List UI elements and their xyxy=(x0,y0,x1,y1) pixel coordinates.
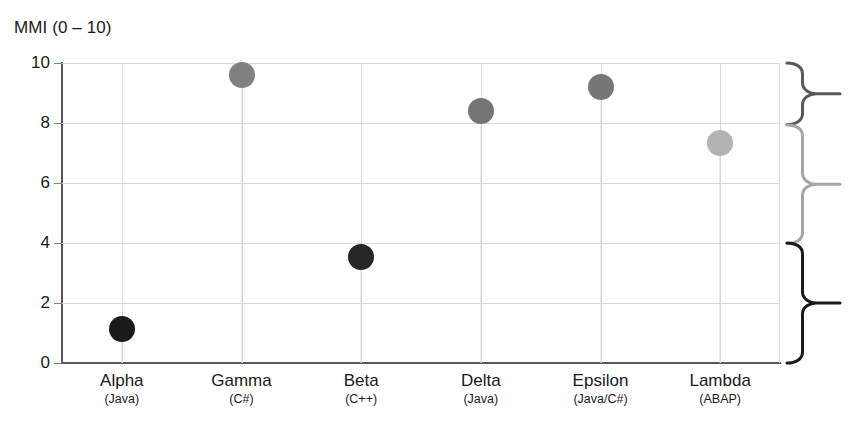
point-stem-beta xyxy=(361,257,362,364)
gridline-h-8 xyxy=(62,123,780,124)
y-tick-mark-6 xyxy=(54,183,62,184)
y-tick-mark-0 xyxy=(54,363,62,364)
data-point-alpha[interactable] xyxy=(109,316,135,342)
brace-middle-band xyxy=(786,125,842,244)
category-label-epsilon: Epsilon(Java/C#) xyxy=(573,371,629,407)
category-sublabel-lambda: (ABAP) xyxy=(689,391,750,407)
gridline-v-right-edge xyxy=(779,63,780,363)
data-point-epsilon[interactable] xyxy=(588,74,614,100)
plot-area xyxy=(62,63,780,363)
brace-bottom-band xyxy=(786,243,842,363)
category-name-delta: Delta xyxy=(461,371,501,391)
category-name-gamma: Gamma xyxy=(211,371,271,391)
category-sublabel-delta: (Java) xyxy=(461,391,501,407)
point-stem-lambda xyxy=(720,143,721,364)
y-tick-label-8: 8 xyxy=(6,113,50,133)
y-tick-mark-10 xyxy=(54,63,62,64)
category-name-epsilon: Epsilon xyxy=(573,371,629,391)
gridline-h-2 xyxy=(62,303,780,304)
data-point-beta[interactable] xyxy=(348,244,374,270)
brace-top-band xyxy=(786,63,842,125)
y-tick-mark-8 xyxy=(54,123,62,124)
y-tick-mark-2 xyxy=(54,303,62,304)
mmi-scatter-chart: MMI (0 – 10) 0246810 Alpha(Java)Gamma(C#… xyxy=(0,0,868,435)
gridline-h-6 xyxy=(62,183,780,184)
category-sublabel-epsilon: (Java/C#) xyxy=(573,391,629,407)
category-label-lambda: Lambda(ABAP) xyxy=(689,371,750,407)
data-point-gamma[interactable] xyxy=(229,62,255,88)
category-label-delta: Delta(Java) xyxy=(461,371,501,407)
y-tick-label-0: 0 xyxy=(6,353,50,373)
gridline-h-4 xyxy=(62,243,780,244)
category-label-gamma: Gamma(C#) xyxy=(211,371,271,407)
category-name-beta: Beta xyxy=(344,371,379,391)
y-tick-label-4: 4 xyxy=(6,233,50,253)
category-sublabel-beta: (C++) xyxy=(344,391,379,407)
data-point-delta[interactable] xyxy=(468,98,494,124)
point-stem-delta xyxy=(480,111,481,363)
category-name-alpha: Alpha xyxy=(100,371,143,391)
data-point-lambda[interactable] xyxy=(707,130,733,156)
category-label-beta: Beta(C++) xyxy=(344,371,379,407)
point-stem-epsilon xyxy=(600,87,601,363)
category-label-alpha: Alpha(Java) xyxy=(100,371,143,407)
y-tick-label-2: 2 xyxy=(6,293,50,313)
category-sublabel-alpha: (Java) xyxy=(100,391,143,407)
y-tick-label-6: 6 xyxy=(6,173,50,193)
category-name-lambda: Lambda xyxy=(689,371,750,391)
y-tick-label-10: 10 xyxy=(6,53,50,73)
gridline-h-10 xyxy=(62,63,780,64)
point-stem-gamma xyxy=(241,75,242,363)
y-tick-mark-4 xyxy=(54,243,62,244)
category-sublabel-gamma: (C#) xyxy=(211,391,271,407)
chart-axis-title: MMI (0 – 10) xyxy=(14,18,112,38)
